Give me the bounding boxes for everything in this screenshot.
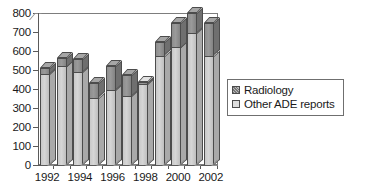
bar-group [204,13,214,165]
bar-side-face-other-ade-reports [132,90,138,165]
bar-side-face-other-ade-reports [181,42,187,165]
bar-side-face-other-ade-reports [116,85,122,165]
bar-segment-radiology [204,23,214,55]
bar-group [171,13,181,165]
bar-segment-other-ade-reports [204,56,214,165]
legend-label-other-ade-reports: Other ADE reports [244,98,335,110]
bar-segment-other-ade-reports [138,84,148,165]
x-axis-tick-label: 1998 [128,171,162,184]
x-axis-tick-label: 1992 [30,171,64,184]
x-axis-tick-label: 1994 [63,171,97,184]
bar-segment-radiology [73,59,83,72]
bar-segment-radiology [40,68,50,74]
bar-group [106,13,116,165]
bar-segment-radiology [187,13,197,33]
bar-side-face-other-ade-reports [99,92,105,165]
y-axis-tick-label: 500 [0,65,31,76]
legend-swatch-other-ade-reports-icon [232,100,240,108]
y-axis-tick-label: 300 [0,103,31,114]
bar-side-face-other-ade-reports [67,61,73,165]
bar-side-face-other-ade-reports [197,28,203,165]
chart-legend: Radiology Other ADE reports [227,79,344,116]
chart-figure: 800 700 600 500 400 300 200 100 0 199219… [0,0,365,193]
legend-label-radiology: Radiology [244,84,293,96]
bar-side-face-other-ade-reports [165,50,171,165]
bars-layer [38,13,218,165]
x-axis-tick-label: 2002 [194,171,228,184]
bar-side-face-other-ade-reports [50,68,56,165]
y-axis-tick-label: 200 [0,122,31,133]
bar-segment-other-ade-reports [57,66,67,165]
bar-segment-radiology [57,58,67,67]
bar-segment-other-ade-reports [155,56,165,165]
bar-group [122,13,132,165]
bar-group [138,13,148,165]
bar-segment-other-ade-reports [122,96,132,165]
bar-side-face-other-ade-reports [214,50,220,165]
bar-side-face-other-ade-reports [83,67,89,165]
x-axis-tick-label: 2000 [161,171,195,184]
bar-segment-radiology [89,83,99,97]
bar-group [73,13,83,165]
y-axis-tick-label: 600 [0,46,31,57]
y-axis-tick-label: 100 [0,141,31,152]
bar-segment-radiology [155,42,165,55]
bar-segment-other-ade-reports [89,98,99,165]
y-axis-tick-label: 400 [0,84,31,95]
bar-segment-radiology [138,82,148,84]
bar-group [187,13,197,165]
legend-item-radiology: Radiology [232,83,339,97]
bar-segment-other-ade-reports [106,90,116,165]
bar-segment-other-ade-reports [73,72,83,165]
bar-side-face-radiology [214,18,220,56]
bar-side-face-other-ade-reports [148,79,154,165]
bar-segment-radiology [122,75,132,96]
bar-group [40,13,50,165]
bar-segment-other-ade-reports [187,33,197,165]
x-axis-tick-label: 1996 [96,171,130,184]
y-axis-tick-label: 700 [0,27,31,38]
y-axis-tick-label: 0 [0,160,31,171]
bar-group [89,13,99,165]
bar-segment-other-ade-reports [40,74,50,165]
legend-item-other-ade-reports: Other ADE reports [232,97,339,111]
bar-group [57,13,67,165]
y-axis-tick-label: 800 [0,8,31,19]
bar-segment-radiology [106,66,116,90]
legend-swatch-radiology-icon [232,86,240,94]
bar-segment-radiology [171,23,181,48]
bar-group [155,13,165,165]
bar-segment-other-ade-reports [171,47,181,165]
y-axis-label-group: 800 700 600 500 400 300 200 100 0 [0,0,31,193]
